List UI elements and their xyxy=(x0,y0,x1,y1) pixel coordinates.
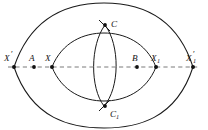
point-marker-c-one xyxy=(103,104,107,108)
label-c-one: C 1 xyxy=(110,109,119,120)
label-x-prime-one: X ′ 1 xyxy=(185,50,196,64)
vertical-arc-left xyxy=(94,25,105,106)
inner-arc-upper xyxy=(52,33,156,67)
svg-text:1: 1 xyxy=(157,57,160,64)
svg-text:X: X xyxy=(3,53,10,63)
label-x: X xyxy=(44,53,51,63)
inner-arc-lower xyxy=(52,67,156,101)
lens-construction-diagram: X ′ A X C C 1 B X 1 X ′ 1 xyxy=(0,0,208,130)
point-marker-c xyxy=(103,23,107,27)
label-x-prime: X ′ xyxy=(3,50,13,63)
point-marker-x xyxy=(50,65,54,69)
outer-arc-upper xyxy=(14,3,193,67)
point-marker-x-one xyxy=(154,65,158,69)
point-marker-x-prime-one xyxy=(191,65,195,69)
point-marker-a xyxy=(32,65,36,69)
svg-text:1: 1 xyxy=(116,113,119,120)
vertical-arc-right xyxy=(104,25,116,106)
svg-text:X: X xyxy=(150,53,157,63)
label-b: B xyxy=(132,53,138,63)
geometric-figure-container: X ′ A X C C 1 B X 1 X ′ 1 xyxy=(0,0,208,130)
label-a: A xyxy=(28,53,35,63)
svg-text:X: X xyxy=(185,53,192,63)
svg-text:′: ′ xyxy=(11,50,13,59)
outer-arc-lower xyxy=(14,67,193,128)
label-x-one: X 1 xyxy=(150,53,160,64)
label-c: C xyxy=(111,19,118,29)
point-marker-b xyxy=(135,65,139,69)
point-marker-x-prime xyxy=(12,65,16,69)
svg-text:1: 1 xyxy=(193,57,196,64)
